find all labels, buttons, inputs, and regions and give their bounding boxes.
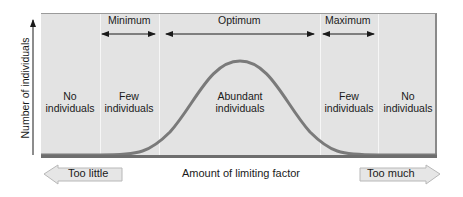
zone-no-individuals-right: No individuals [378, 90, 438, 114]
zone-no-individuals-left: No individuals [40, 90, 100, 114]
zone-few-individuals-right: Few individuals [319, 90, 379, 114]
x-axis-label: Amount of limiting factor [182, 167, 300, 179]
zone-few-individuals-left: Few individuals [99, 90, 159, 114]
zone-abundant-individuals: Abundant individuals [210, 90, 270, 114]
range-label-optimum: Optimum [218, 14, 261, 26]
range-label-maximum: Maximum [325, 14, 371, 26]
too-much-label: Too much [367, 167, 415, 179]
range-label-minimum: Minimum [108, 14, 151, 26]
y-axis-label: Number of individuals [19, 33, 31, 143]
x-axis-baseline [41, 155, 437, 158]
too-little-label: Too little [68, 167, 108, 179]
